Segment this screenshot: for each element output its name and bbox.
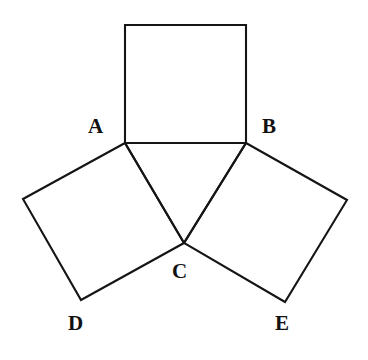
square-right xyxy=(184,143,347,302)
vertex-label-c: C xyxy=(172,261,187,282)
square-left xyxy=(23,143,184,300)
figure-svg xyxy=(0,0,368,360)
segment-ac xyxy=(125,143,184,243)
vertex-label-d: D xyxy=(68,313,83,334)
square-top xyxy=(125,25,246,143)
vertex-label-a: A xyxy=(88,116,103,137)
vertex-label-b: B xyxy=(262,116,276,137)
segment-bc xyxy=(184,143,246,243)
geometry-diagram: A B C D E xyxy=(0,0,368,360)
vertex-label-e: E xyxy=(275,313,289,334)
